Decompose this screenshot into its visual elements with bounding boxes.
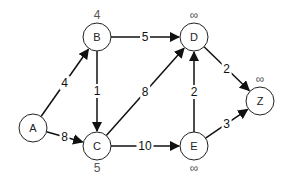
edge-weight-C-E: 10 [138,139,152,153]
node-distance: ∞ [190,161,199,175]
node-Z: Z∞ [246,72,274,115]
node-C: C5 [83,132,111,175]
node-label: C [93,140,101,152]
node-label: E [190,140,197,152]
edge-weight-A-B: 4 [61,76,68,90]
edge-weight-C-D: 8 [142,85,149,99]
graph-diagram: 4815810223 AB4C5D∞E∞Z∞ [0,0,285,180]
edges: 4815810223 [41,30,249,153]
node-distance: 4 [94,8,101,22]
node-D: D∞ [180,8,208,51]
node-label: A [29,122,37,134]
node-A: A [19,114,47,142]
node-label: Z [257,95,264,107]
node-distance: ∞ [190,8,199,22]
edge-weight-B-D: 5 [142,30,149,44]
edge-weight-E-Z: 3 [223,117,230,131]
node-label: D [190,31,198,43]
node-distance: ∞ [256,72,265,86]
node-label: B [93,31,100,43]
graph-svg: 4815810223 AB4C5D∞E∞Z∞ [0,0,285,180]
edge-weight-D-Z: 2 [223,62,230,76]
node-B: B4 [83,8,111,51]
edge-weight-A-C: 8 [61,130,68,144]
node-E: E∞ [180,132,208,175]
edge-weight-B-C: 1 [94,84,101,98]
edge-weight-E-D: 2 [191,85,198,99]
node-distance: 5 [94,161,101,175]
